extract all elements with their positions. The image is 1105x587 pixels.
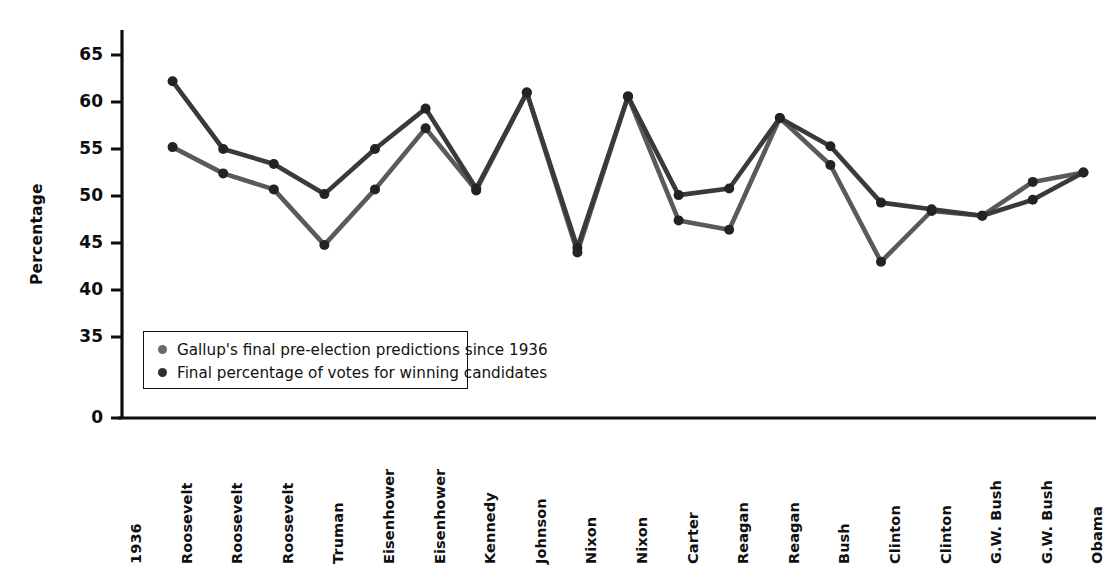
data-point: [370, 184, 380, 194]
data-point: [1028, 195, 1038, 205]
data-point: [1078, 168, 1088, 178]
data-point: [168, 142, 178, 152]
data-point: [269, 184, 279, 194]
legend-label-votes: Final percentage of votes for winning ca…: [177, 364, 547, 382]
data-point: [471, 184, 481, 194]
data-point: [370, 144, 380, 154]
data-point: [572, 243, 582, 253]
legend-entry-predictions: Gallup's final pre-election predictions …: [144, 338, 467, 361]
data-series: [168, 76, 1089, 266]
data-point: [1028, 177, 1038, 187]
legend-marker-predictions: [158, 345, 167, 354]
data-point: [825, 141, 835, 151]
data-point: [876, 198, 886, 208]
data-point: [168, 76, 178, 86]
series-line: [173, 93, 1084, 262]
series-line: [173, 81, 1084, 247]
chart-legend: Gallup's final pre-election predictions …: [143, 331, 468, 389]
data-point: [724, 225, 734, 235]
data-point: [421, 123, 431, 133]
data-point: [421, 104, 431, 114]
data-point: [775, 113, 785, 123]
data-point: [674, 190, 684, 200]
legend-entry-votes: Final percentage of votes for winning ca…: [144, 361, 467, 384]
data-point: [977, 211, 987, 221]
data-point: [218, 144, 228, 154]
data-point: [522, 88, 532, 98]
data-point: [623, 91, 633, 101]
data-point: [319, 240, 329, 250]
data-point: [218, 168, 228, 178]
data-point: [876, 257, 886, 267]
data-point: [319, 189, 329, 199]
data-point: [269, 159, 279, 169]
data-point: [674, 215, 684, 225]
data-point: [724, 184, 734, 194]
legend-label-predictions: Gallup's final pre-election predictions …: [177, 341, 548, 359]
data-point: [927, 204, 937, 214]
legend-marker-votes: [158, 368, 167, 377]
data-point: [825, 160, 835, 170]
